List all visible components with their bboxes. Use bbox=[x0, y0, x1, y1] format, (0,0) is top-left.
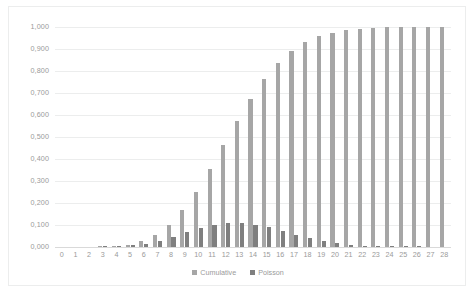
bar-group bbox=[233, 27, 247, 247]
plot-area bbox=[55, 27, 451, 247]
y-axis-tick-label: 0,600 bbox=[9, 111, 49, 118]
bar-poisson[interactable] bbox=[294, 235, 298, 247]
bar-cumulative[interactable] bbox=[440, 27, 444, 247]
bar-cumulative[interactable] bbox=[276, 63, 280, 247]
bar-cumulative[interactable] bbox=[248, 99, 252, 248]
bar-group bbox=[123, 27, 137, 247]
x-axis-tick-label: 26 bbox=[410, 251, 424, 258]
x-axis-tick-label: 6 bbox=[137, 251, 151, 258]
x-axis-tick-label: 7 bbox=[151, 251, 165, 258]
bar-group bbox=[369, 27, 383, 247]
bar-poisson[interactable] bbox=[171, 237, 175, 247]
bar-cumulative[interactable] bbox=[412, 27, 416, 247]
legend-item[interactable]: Poisson bbox=[250, 269, 284, 276]
x-axis-tick-label: 3 bbox=[96, 251, 110, 258]
x-axis-tick-label: 23 bbox=[369, 251, 383, 258]
legend-swatch-icon bbox=[250, 270, 255, 275]
bar-group bbox=[328, 27, 342, 247]
bar-group bbox=[301, 27, 315, 247]
x-axis-tick-label: 22 bbox=[355, 251, 369, 258]
x-axis-tick-label: 24 bbox=[383, 251, 397, 258]
y-axis-tick-label: 0,100 bbox=[9, 221, 49, 228]
legend-item[interactable]: Cumulative bbox=[192, 269, 236, 276]
bar-group bbox=[355, 27, 369, 247]
bar-poisson[interactable] bbox=[212, 225, 216, 247]
bar-poisson[interactable] bbox=[240, 223, 244, 247]
x-axis-tick-label: 5 bbox=[123, 251, 137, 258]
x-axis-tick-label: 25 bbox=[396, 251, 410, 258]
y-axis-tick-label: 0,400 bbox=[9, 155, 49, 162]
bar-cumulative[interactable] bbox=[208, 169, 212, 247]
bar-cumulative[interactable] bbox=[358, 29, 362, 247]
x-axis-tick-label: 1 bbox=[69, 251, 83, 258]
x-axis-tick-label: 20 bbox=[328, 251, 342, 258]
x-axis-tick-label: 18 bbox=[301, 251, 315, 258]
bar-cumulative[interactable] bbox=[399, 27, 403, 247]
bar-group bbox=[342, 27, 356, 247]
bar-group bbox=[96, 27, 110, 247]
x-axis-tick-label: 15 bbox=[260, 251, 274, 258]
bar-group bbox=[396, 27, 410, 247]
bar-poisson[interactable] bbox=[185, 232, 189, 247]
bar-poisson[interactable] bbox=[267, 227, 271, 247]
y-axis-tick-label: 0,200 bbox=[9, 199, 49, 206]
x-axis-tick-label: 17 bbox=[287, 251, 301, 258]
bar-cumulative[interactable] bbox=[153, 235, 157, 247]
bar-group bbox=[246, 27, 260, 247]
bar-group bbox=[164, 27, 178, 247]
bar-cumulative[interactable] bbox=[330, 33, 334, 248]
x-axis-tick-label: 4 bbox=[110, 251, 124, 258]
x-axis-tick-label: 0 bbox=[55, 251, 69, 258]
bar-group bbox=[55, 27, 69, 247]
bar-cumulative[interactable] bbox=[194, 192, 198, 247]
x-axis-tick-label: 21 bbox=[342, 251, 356, 258]
legend-label: Cumulative bbox=[200, 269, 236, 276]
bar-group bbox=[205, 27, 219, 247]
bar-group bbox=[424, 27, 438, 247]
bar-cumulative[interactable] bbox=[385, 27, 389, 247]
y-axis-tick-label: 0,800 bbox=[9, 67, 49, 74]
bar-poisson[interactable] bbox=[226, 223, 230, 247]
bar-group bbox=[178, 27, 192, 247]
chart-legend: CumulativePoisson bbox=[9, 269, 467, 276]
y-axis-tick-label: 0,000 bbox=[9, 243, 49, 250]
x-axis-tick-label: 8 bbox=[164, 251, 178, 258]
bar-group bbox=[287, 27, 301, 247]
x-axis-tick-label: 14 bbox=[246, 251, 260, 258]
y-axis-tick-label: 0,900 bbox=[9, 45, 49, 52]
bar-group bbox=[383, 27, 397, 247]
bar-cumulative[interactable] bbox=[303, 42, 307, 247]
bar-group bbox=[110, 27, 124, 247]
bar-poisson[interactable] bbox=[199, 228, 203, 247]
bar-poisson[interactable] bbox=[281, 231, 285, 247]
legend-swatch-icon bbox=[192, 270, 197, 275]
x-axis-baseline bbox=[55, 247, 451, 248]
bar-cumulative[interactable] bbox=[262, 79, 266, 247]
bar-cumulative[interactable] bbox=[221, 145, 225, 247]
x-axis-tick-label: 16 bbox=[273, 251, 287, 258]
bar-cumulative[interactable] bbox=[426, 27, 430, 247]
bar-cumulative[interactable] bbox=[167, 225, 171, 247]
x-axis-tick-label: 9 bbox=[178, 251, 192, 258]
bar-cumulative[interactable] bbox=[289, 51, 293, 247]
x-axis-tick-label: 19 bbox=[314, 251, 328, 258]
bar-cumulative[interactable] bbox=[235, 121, 239, 247]
bar-cumulative[interactable] bbox=[317, 36, 321, 247]
bar-group bbox=[219, 27, 233, 247]
bar-cumulative[interactable] bbox=[371, 28, 375, 247]
bar-cumulative[interactable] bbox=[344, 30, 348, 247]
bar-poisson[interactable] bbox=[308, 238, 312, 247]
x-axis-tick-label: 27 bbox=[424, 251, 438, 258]
bar-cumulative[interactable] bbox=[180, 210, 184, 247]
bar-group bbox=[82, 27, 96, 247]
legend-label: Poisson bbox=[258, 269, 284, 276]
bar-group bbox=[273, 27, 287, 247]
chart-container: 0,0000,1000,2000,3000,4000,5000,6000,700… bbox=[8, 6, 466, 286]
x-axis-tick-label: 13 bbox=[233, 251, 247, 258]
bar-group bbox=[314, 27, 328, 247]
bar-poisson[interactable] bbox=[253, 225, 257, 247]
y-axis: 0,0000,1000,2000,3000,4000,5000,6000,700… bbox=[9, 7, 55, 267]
x-axis: 0123456789101112131415161718192021222324… bbox=[55, 251, 451, 263]
y-axis-tick-label: 0,500 bbox=[9, 133, 49, 140]
y-axis-tick-label: 0,300 bbox=[9, 177, 49, 184]
